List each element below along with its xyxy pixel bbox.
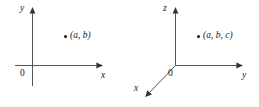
- point-marker-3d: [197, 35, 200, 38]
- z-axis-label-3d: z: [163, 4, 167, 14]
- point-label-2d: (a, b): [70, 31, 91, 41]
- y-axis-label-2d: y: [20, 4, 24, 14]
- x-axis-label-3d: x: [134, 84, 138, 94]
- z-axis-arrowhead-3d: [173, 7, 179, 14]
- y-axis-arrowhead-2d: [30, 7, 36, 14]
- coordinate-systems-figure: y x 0 (a, b) z y x 0 (a, b, c): [0, 0, 259, 107]
- point-marker-2d: [64, 35, 67, 38]
- x-axis-label-2d: x: [101, 71, 105, 81]
- y-axis-label-3d: y: [242, 71, 246, 81]
- diagram-3d-axes: [145, 7, 243, 97]
- point-label-3d: (a, b, c): [203, 31, 233, 41]
- origin-label-3d: 0: [168, 69, 173, 79]
- x-axis-arrowhead-2d: [96, 63, 103, 69]
- diagram-2d-axes: [15, 7, 103, 86]
- origin-label-2d: 0: [20, 69, 25, 79]
- y-axis-arrowhead-3d: [236, 63, 243, 69]
- axes-vector-layer: [0, 0, 259, 107]
